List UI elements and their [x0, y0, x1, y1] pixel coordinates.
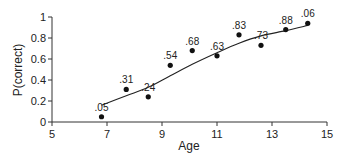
x-tick-label: 9: [159, 128, 165, 140]
x-tick-label: 13: [266, 128, 278, 140]
x-tick-label: 15: [321, 128, 333, 140]
data-point: [283, 27, 288, 32]
fit-curve: [102, 25, 308, 105]
data-point: [214, 53, 219, 58]
y-tick-label: 0.8: [31, 32, 46, 44]
data-point-label: .88: [279, 15, 293, 26]
data-point-label: .06: [301, 8, 315, 19]
data-point: [190, 48, 195, 53]
data-point: [124, 87, 129, 92]
data-point: [258, 43, 263, 48]
fit-curve-path: [102, 25, 308, 105]
data-point: [168, 63, 173, 68]
x-tick-label: 5: [49, 128, 55, 140]
y-tick-label: 0: [40, 116, 46, 128]
scatter-chart: 57911131500.20.40.60.81 .05.31.24.54.68.…: [0, 0, 350, 159]
x-tick-label: 11: [211, 128, 222, 140]
data-point-label: .68: [185, 36, 199, 47]
data-point: [236, 32, 241, 37]
data-point-label: .83: [232, 20, 246, 31]
data-point-label: .24: [141, 82, 155, 93]
y-axis-title: P(correct): [11, 44, 25, 97]
y-tick-label: 0.6: [31, 53, 46, 65]
data-point-label: .54: [163, 50, 177, 61]
y-tick-label: 1: [40, 11, 46, 23]
data-point-label: .05: [95, 102, 109, 113]
y-tick-label: 0.4: [31, 74, 46, 86]
x-tick-label: 7: [104, 128, 110, 140]
data-point: [305, 21, 310, 26]
y-tick-label: 0.2: [31, 95, 46, 107]
data-point-label: .63: [210, 41, 224, 52]
data-points: .05.31.24.54.68.63.83.73.88.06: [95, 8, 316, 119]
x-axis-title: Age: [178, 139, 200, 153]
data-point: [99, 114, 104, 119]
data-point-label: .73: [254, 30, 268, 41]
data-point: [146, 94, 151, 99]
data-point-label: .31: [119, 74, 133, 85]
